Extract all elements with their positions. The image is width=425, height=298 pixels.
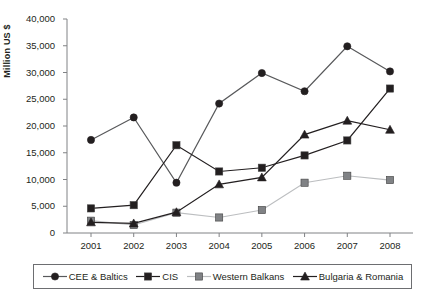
series-line [91, 89, 390, 209]
x-tick-label: 2006 [294, 241, 315, 251]
data-point [301, 88, 308, 95]
data-point [173, 179, 180, 186]
series-line [91, 176, 390, 225]
series-cis [87, 85, 393, 212]
data-point [216, 168, 223, 175]
x-tick-label: 2008 [379, 241, 400, 251]
legend-marker [195, 273, 202, 280]
data-point [130, 202, 137, 209]
square-marker-icon [135, 271, 161, 282]
plot-area [0, 0, 425, 250]
data-point [258, 164, 265, 171]
legend-item[interactable]: Western Balkans [186, 271, 285, 282]
legend-item[interactable]: Bulgaria & Romania [292, 271, 404, 282]
legend-item-label: Western Balkans [213, 272, 285, 282]
data-point [344, 43, 351, 50]
data-point [130, 114, 137, 121]
legend-item[interactable]: CIS [135, 271, 178, 282]
circle-marker-icon [42, 271, 68, 282]
data-point [386, 85, 393, 92]
triangle-marker-icon [292, 271, 318, 282]
data-point [344, 137, 351, 144]
data-point [216, 214, 223, 221]
data-point [173, 142, 180, 149]
legend-item-label: Bulgaria & Romania [319, 272, 404, 282]
data-point [386, 68, 393, 75]
data-point [343, 116, 352, 124]
series-bulgaria-romania [87, 116, 395, 227]
legend-marker [145, 273, 152, 280]
legend-marker [51, 273, 58, 280]
x-tick-label: 2001 [80, 241, 101, 251]
series-cee-baltics [87, 43, 393, 187]
data-point [216, 100, 223, 107]
x-tick-label: 2005 [251, 241, 272, 251]
data-point [344, 172, 351, 179]
legend-item-label: CEE & Baltics [69, 272, 128, 282]
data-point [87, 136, 94, 143]
data-point [258, 69, 265, 76]
data-point [386, 176, 393, 183]
line-chart: Million US $ 05,00010,00015,00020,00025,… [0, 0, 425, 298]
data-point [258, 206, 265, 213]
x-tick-label: 2007 [337, 241, 358, 251]
x-tick-label: 2004 [209, 241, 230, 251]
gray-square-marker-icon [186, 271, 212, 282]
chart-legend: CEE & BalticsCISWestern BalkansBulgaria … [33, 264, 412, 289]
data-point [301, 152, 308, 159]
data-point [301, 179, 308, 186]
x-tick-label: 2003 [166, 241, 187, 251]
x-tick-label: 2002 [123, 241, 144, 251]
data-point [87, 205, 94, 212]
legend-item-label: CIS [162, 272, 178, 282]
legend-item[interactable]: CEE & Baltics [42, 271, 128, 282]
